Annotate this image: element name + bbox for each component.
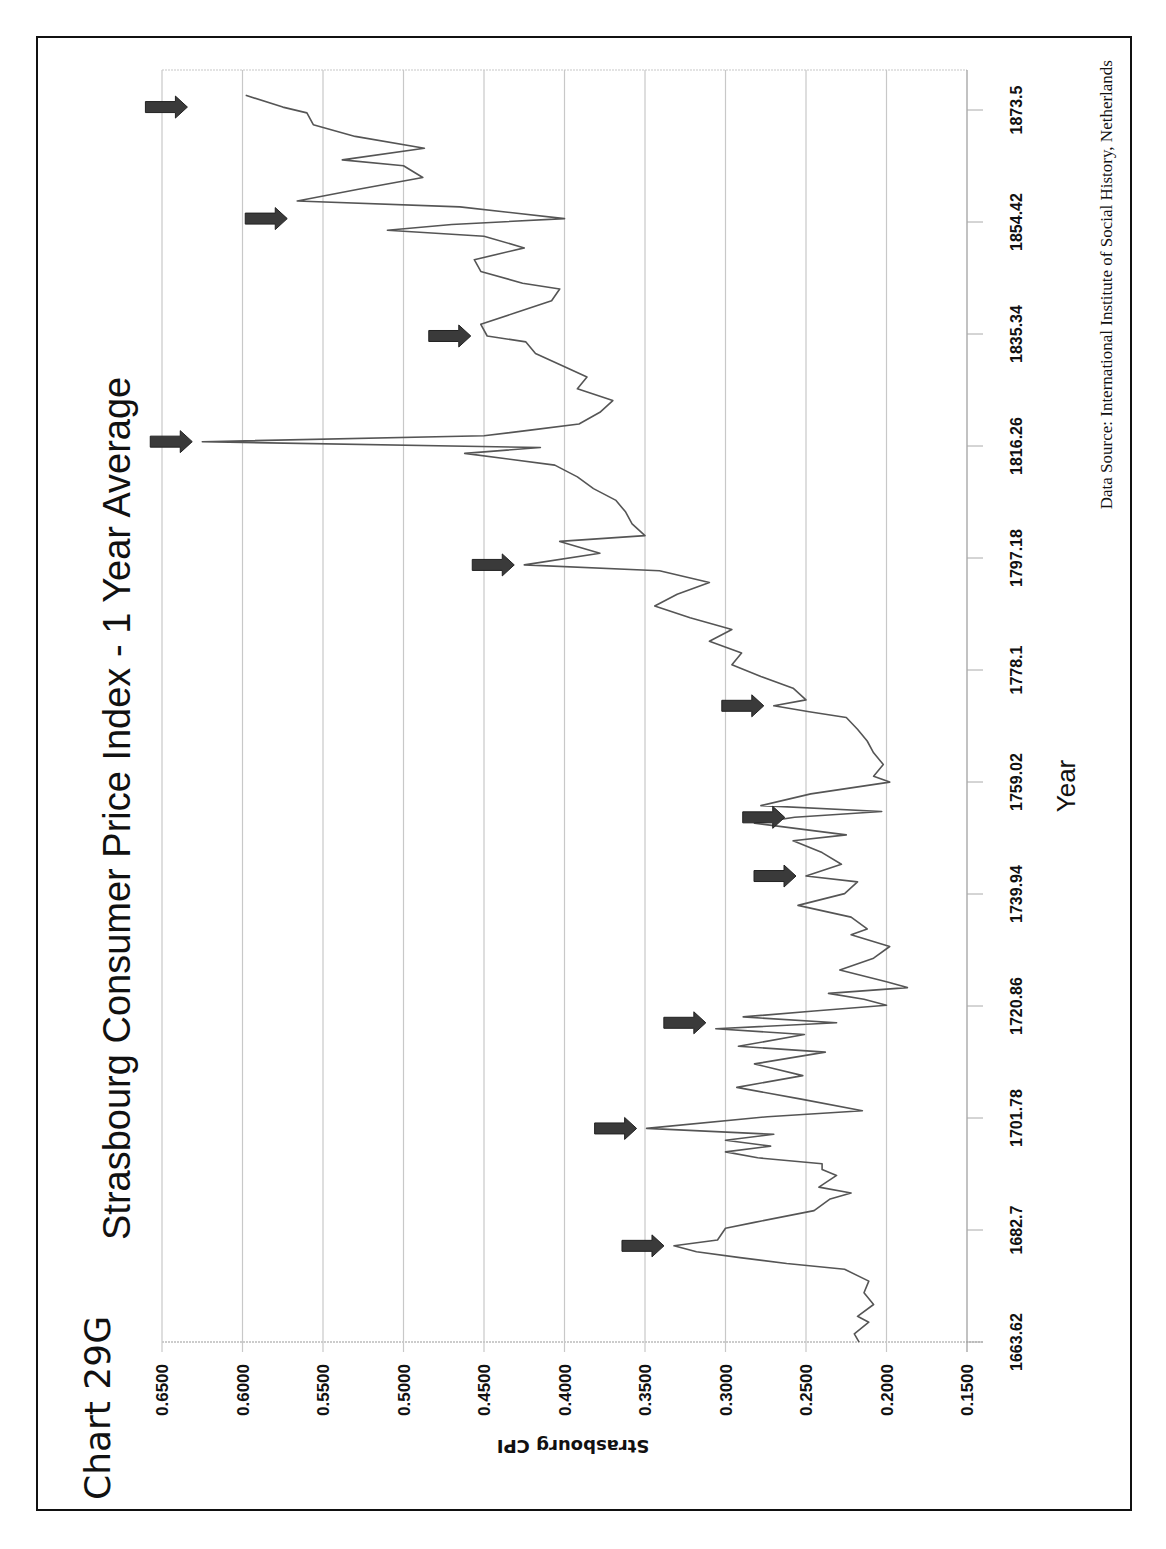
x-tick-label: 1759.02 [1008, 753, 1025, 811]
y-tick-label: 0.3000 [717, 1364, 736, 1416]
arrow-icon [472, 554, 514, 576]
y-tick-label: 0.2500 [797, 1364, 816, 1416]
x-axis-title: Year [1051, 759, 1081, 812]
data-source: Data Source: International Institute of … [1097, 60, 1116, 509]
y-tick-label: 0.4500 [475, 1364, 494, 1416]
x-tick-label: 1816.26 [1008, 417, 1025, 475]
y-axis-title: Strasbourg CPI [497, 1436, 650, 1457]
grid-lines [162, 70, 983, 1352]
x-tick-label: 1854.42 [1008, 193, 1025, 251]
y-tick-label: 0.6500 [153, 1364, 172, 1416]
y-tick-label: 0.1500 [958, 1364, 977, 1416]
arrow-icon [429, 325, 471, 347]
arrow-icon [150, 431, 192, 453]
cpi-chart: 0.65000.60000.55000.50000.45000.40000.35… [0, 0, 1166, 1549]
y-tick-label: 0.5000 [395, 1364, 414, 1416]
arrow-icon [145, 96, 187, 118]
arrow-icon [664, 1012, 706, 1034]
x-tick-label: 1663.62 [1008, 1313, 1025, 1371]
chart-title: Strasbourg Consumer Price Index - 1 Year… [96, 377, 138, 1240]
cpi-line [202, 95, 907, 1342]
x-tick-label: 1682.7 [1008, 1205, 1025, 1254]
y-tick-label: 0.2000 [878, 1364, 897, 1416]
cpi-line-series [202, 95, 907, 1342]
x-tick-label: 1778.1 [1008, 645, 1025, 694]
arrow-icon [595, 1117, 637, 1139]
arrow-icon [722, 695, 764, 717]
chart-id: Chart 29G [77, 1316, 118, 1500]
y-tick-label: 0.6000 [234, 1364, 253, 1416]
x-tick-label: 1739.94 [1008, 865, 1025, 923]
x-tick-label: 1720.86 [1008, 977, 1025, 1035]
axis-ticks: 0.65000.60000.55000.50000.45000.40000.35… [153, 85, 1025, 1416]
x-tick-label: 1797.18 [1008, 529, 1025, 587]
y-tick-label: 0.5500 [314, 1364, 333, 1416]
y-tick-label: 0.3500 [636, 1364, 655, 1416]
arrow-icon [622, 1235, 664, 1257]
arrow-icon [245, 208, 287, 230]
x-tick-label: 1835.34 [1008, 305, 1025, 363]
y-tick-label: 0.4000 [556, 1364, 575, 1416]
x-tick-label: 1873.5 [1008, 85, 1025, 134]
arrow-icon [754, 865, 796, 887]
x-tick-label: 1701.78 [1008, 1089, 1025, 1147]
